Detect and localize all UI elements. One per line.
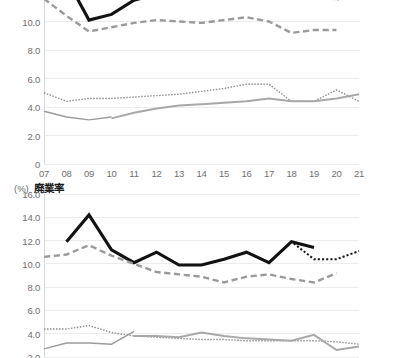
chart-exit-rate: (%)廃業率 16.014.012.010.08.06.04.02.0 bbox=[0, 178, 394, 358]
plot-svg-exit-rate bbox=[0, 178, 394, 358]
chart-startup-rate: (%)開業率 16.014.012.010.08.06.04.02.00 070… bbox=[0, 0, 394, 168]
chart-page: (%)開業率 16.014.012.010.08.06.04.02.00 070… bbox=[0, 0, 394, 358]
x-axis-exit-rate bbox=[0, 178, 394, 194]
plot-svg-startup-rate bbox=[0, 0, 394, 168]
